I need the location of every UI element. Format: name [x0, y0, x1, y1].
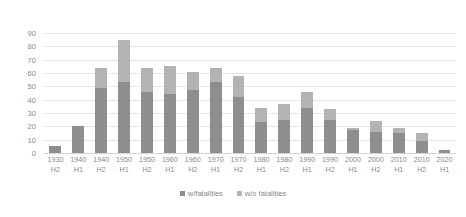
- x-tick-label: 1950H1: [113, 155, 136, 174]
- x-tick-label: 1980H2: [273, 155, 296, 174]
- bar-group: [278, 104, 290, 153]
- gridline-0: [44, 153, 456, 154]
- x-tick-label: 1980H1: [250, 155, 273, 174]
- bar-segment-wo-fatalities: [370, 121, 382, 132]
- x-tick-label: 1950H2: [136, 155, 159, 174]
- bar-segment-w-fatalities: [118, 82, 130, 153]
- legend-item[interactable]: w/o fatalities: [237, 189, 286, 198]
- bar-group: [95, 68, 107, 153]
- bar-group: [324, 109, 336, 153]
- bar-series-container: [44, 33, 456, 153]
- bar-segment-w-fatalities: [255, 122, 267, 153]
- bar-group: [233, 76, 245, 153]
- bar-segment-wo-fatalities: [210, 68, 222, 83]
- legend-item[interactable]: w/fatalities: [180, 189, 223, 198]
- bar-segment-w-fatalities: [164, 94, 176, 153]
- bar-segment-w-fatalities: [233, 97, 245, 153]
- bar-segment-wo-fatalities: [233, 76, 245, 97]
- x-tick-label: 2000H2: [364, 155, 387, 174]
- bar-segment-w-fatalities: [187, 90, 199, 153]
- y-tick-label: 0: [32, 149, 36, 158]
- bar-group: [72, 126, 84, 153]
- bar-group: [416, 133, 428, 153]
- y-tick-label: 10: [27, 135, 36, 144]
- legend-swatch-icon: [237, 191, 242, 196]
- legend-label: w/fatalities: [188, 189, 223, 198]
- bar-group: [255, 108, 267, 153]
- bar-segment-w-fatalities: [210, 82, 222, 153]
- bar-segment-w-fatalities: [347, 130, 359, 153]
- legend-label: w/o fatalities: [245, 189, 286, 198]
- y-tick-label: 30: [27, 109, 36, 118]
- bar-group: [370, 121, 382, 153]
- chart-legend: w/fatalitiesw/o fatalities: [0, 189, 466, 198]
- bar-segment-w-fatalities: [95, 88, 107, 153]
- plot-area: [44, 33, 456, 153]
- bar-segment-wo-fatalities: [416, 133, 428, 141]
- bar-segment-wo-fatalities: [164, 66, 176, 94]
- bar-group: [187, 72, 199, 153]
- bar-segment-wo-fatalities: [278, 104, 290, 120]
- x-tick-label: 1970H1: [204, 155, 227, 174]
- bar-segment-wo-fatalities: [118, 40, 130, 83]
- bar-segment-w-fatalities: [301, 108, 313, 153]
- bar-segment-w-fatalities: [72, 126, 84, 153]
- bar-chart: 0102030405060708090 1930H21940H11940H219…: [0, 0, 466, 217]
- bar-segment-wo-fatalities: [95, 68, 107, 88]
- y-tick-label: 50: [27, 82, 36, 91]
- x-tick-label: 1940H2: [90, 155, 113, 174]
- x-tick-label: 2000H1: [342, 155, 365, 174]
- x-tick-label: 1960H1: [158, 155, 181, 174]
- bar-segment-wo-fatalities: [324, 109, 336, 120]
- bar-group: [210, 68, 222, 153]
- x-tick-label: 2010H1: [387, 155, 410, 174]
- x-axis: 1930H21940H11940H21950H11950H21960H11960…: [44, 155, 456, 183]
- x-tick-label: 2020H1: [433, 155, 456, 174]
- bar-group: [347, 128, 359, 153]
- bar-segment-wo-fatalities: [141, 68, 153, 92]
- y-tick-label: 40: [27, 95, 36, 104]
- bar-segment-wo-fatalities: [255, 108, 267, 123]
- bar-group: [49, 146, 61, 153]
- x-tick-label: 1940H1: [67, 155, 90, 174]
- x-tick-label: 2010H2: [410, 155, 433, 174]
- bar-segment-w-fatalities: [141, 92, 153, 153]
- y-axis: 0102030405060708090: [0, 33, 40, 153]
- bar-group: [439, 150, 451, 153]
- y-tick-label: 60: [27, 69, 36, 78]
- y-tick-label: 20: [27, 122, 36, 131]
- bar-segment-w-fatalities: [49, 146, 61, 153]
- bar-segment-w-fatalities: [370, 132, 382, 153]
- bar-group: [164, 66, 176, 153]
- bar-group: [393, 128, 405, 153]
- bar-segment-w-fatalities: [393, 133, 405, 153]
- bar-group: [118, 40, 130, 153]
- x-tick-label: 1930H2: [44, 155, 67, 174]
- bar-segment-wo-fatalities: [187, 72, 199, 91]
- legend-swatch-icon: [180, 191, 185, 196]
- x-tick-label: 1990H1: [296, 155, 319, 174]
- bar-segment-w-fatalities: [416, 141, 428, 153]
- x-tick-label: 1960H2: [181, 155, 204, 174]
- bar-segment-w-fatalities: [324, 120, 336, 153]
- bar-group: [301, 92, 313, 153]
- x-tick-label: 1970H2: [227, 155, 250, 174]
- y-tick-label: 80: [27, 42, 36, 51]
- bar-segment-wo-fatalities: [301, 92, 313, 108]
- x-tick-label: 1990H2: [319, 155, 342, 174]
- bar-group: [141, 68, 153, 153]
- bar-segment-w-fatalities: [278, 120, 290, 153]
- y-tick-label: 90: [27, 29, 36, 38]
- bar-segment-w-fatalities: [439, 150, 451, 153]
- y-tick-label: 70: [27, 55, 36, 64]
